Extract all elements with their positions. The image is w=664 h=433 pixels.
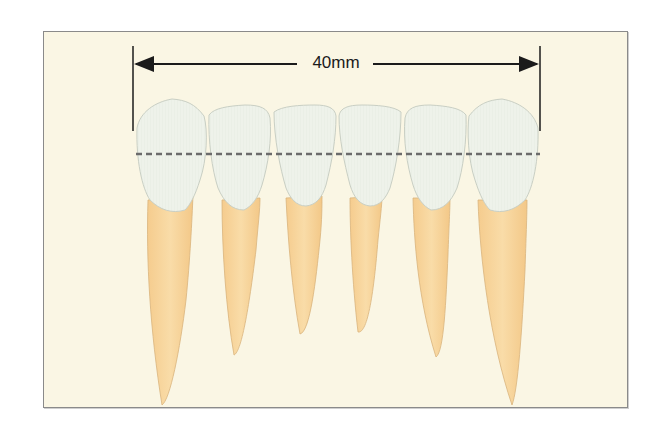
roots: [148, 195, 527, 405]
crown-tooth-2: [209, 105, 271, 210]
root-tooth-1: [148, 195, 193, 405]
measurement-label: 40mm: [305, 52, 367, 74]
root-tooth-4: [350, 196, 382, 332]
crowns: [137, 99, 538, 212]
crown-tooth-6: [468, 99, 538, 212]
root-tooth-2: [222, 198, 260, 355]
crown-tooth-5: [404, 105, 466, 210]
root-tooth-3: [286, 196, 322, 334]
crown-tooth-3: [274, 105, 336, 206]
crown-tooth-4: [339, 105, 401, 206]
crown-tooth-1: [137, 99, 206, 212]
root-tooth-6: [478, 200, 527, 405]
root-tooth-5: [413, 198, 450, 357]
